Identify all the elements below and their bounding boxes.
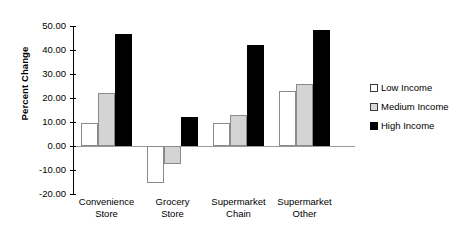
y-tick-mark (70, 26, 76, 27)
x-category-label-line: Other (260, 208, 350, 220)
legend-swatch-icon (370, 103, 378, 111)
y-axis-tick-labels: 50.0040.0030.0020.0010.000.00-10.00-20.0… (18, 0, 66, 233)
y-tick-mark (70, 170, 76, 171)
bar (247, 45, 264, 146)
y-tick-label: 10.00 (18, 117, 66, 127)
legend-swatch-icon (370, 84, 378, 92)
legend-item: Low Income (370, 78, 449, 97)
bar (213, 123, 230, 146)
y-tick-label: 50.00 (18, 21, 66, 31)
bar-group (279, 26, 330, 194)
bar-chart: Percent Change 50.0040.0030.0020.0010.00… (0, 0, 464, 233)
y-tick-mark (70, 74, 76, 75)
y-tick-mark (70, 98, 76, 99)
bar (313, 30, 330, 146)
y-tick-label: -20.00 (18, 189, 66, 199)
legend-item: High Income (370, 116, 449, 135)
bar (230, 115, 247, 146)
y-tick-mark (70, 194, 76, 195)
bar (81, 123, 98, 146)
plot-area (73, 26, 343, 194)
bar-group (213, 26, 264, 194)
legend-label: Medium Income (381, 101, 449, 112)
y-tick-label: 20.00 (18, 93, 66, 103)
x-category-label-line: Supermarket (260, 196, 350, 208)
chart-legend: Low IncomeMedium IncomeHigh Income (370, 78, 449, 135)
bar (181, 117, 198, 146)
bar-group (147, 26, 198, 194)
legend-item: Medium Income (370, 97, 449, 116)
y-tick-label: -10.00 (18, 165, 66, 175)
x-category-label: SupermarketOther (260, 196, 350, 219)
y-tick-label: 0.00 (18, 141, 66, 151)
bar (147, 146, 164, 183)
legend-label: High Income (381, 120, 434, 131)
y-tick-mark (70, 50, 76, 51)
bar-group (81, 26, 132, 194)
legend-swatch-icon (370, 122, 378, 130)
bar (115, 34, 132, 146)
bar (164, 146, 181, 164)
y-tick-label: 40.00 (18, 45, 66, 55)
bar (296, 84, 313, 146)
y-tick-label: 30.00 (18, 69, 66, 79)
y-tick-mark (70, 122, 76, 123)
bar (98, 93, 115, 146)
legend-label: Low Income (381, 82, 432, 93)
y-tick-mark (70, 146, 76, 147)
bar (279, 91, 296, 146)
